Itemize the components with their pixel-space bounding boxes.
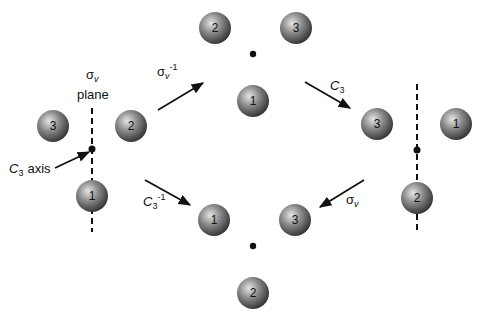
axis-point (89, 146, 96, 153)
svg-text:2: 2 (212, 21, 219, 35)
atom-2: 2 (199, 12, 231, 44)
svg-text:C3: C3 (330, 78, 344, 95)
svg-text:2: 2 (128, 119, 135, 133)
atom-3: 3 (37, 110, 69, 142)
axis-point (250, 243, 256, 249)
op-sigma: σv (320, 180, 364, 209)
axis-point (414, 147, 421, 154)
atom-3: 3 (280, 12, 312, 44)
atom-1: 1 (198, 204, 230, 236)
svg-text:1: 1 (211, 213, 218, 227)
config-top: 2 3 1 (199, 12, 312, 117)
svg-text:C3-1: C3-1 (143, 192, 165, 211)
atom-3: 3 (279, 204, 311, 236)
svg-text:3: 3 (374, 117, 381, 131)
axis-pointer-arrow (55, 152, 89, 168)
svg-text:3: 3 (50, 119, 57, 133)
svg-text:σv: σv (346, 192, 359, 209)
svg-text:3: 3 (293, 21, 300, 35)
op-c3: C3 (305, 78, 350, 108)
svg-text:1: 1 (89, 189, 96, 203)
atom-2: 2 (115, 110, 147, 142)
atom-1: 1 (237, 85, 269, 117)
plane-word: plane (77, 87, 109, 102)
atom-1: 1 (440, 108, 472, 140)
svg-text:3: 3 (292, 213, 299, 227)
svg-text:1: 1 (453, 117, 460, 131)
atom-2: 2 (401, 182, 433, 214)
config-bottom: 1 3 2 (198, 204, 311, 309)
svg-text:2: 2 (414, 191, 421, 205)
atom-2: 2 (237, 277, 269, 309)
svg-text:1: 1 (250, 94, 257, 108)
svg-text:σv-1: σv-1 (157, 62, 178, 81)
svg-text:2: 2 (250, 286, 257, 300)
op-c3-inverse: C3-1 (143, 180, 190, 211)
atom-3: 3 (361, 108, 393, 140)
config-left: 3 2 1 σv plane C3axis (9, 67, 147, 232)
c3-axis-label: C3axis (9, 161, 51, 178)
config-right: 3 1 2 (361, 84, 472, 232)
arrow (158, 83, 203, 110)
sigma-plane-label: σv (86, 67, 99, 84)
axis-point (250, 51, 256, 57)
atom-1: 1 (76, 180, 108, 212)
op-sigma-inverse: σv-1 (157, 62, 203, 110)
symmetry-diagram: 3 2 1 σv plane C3axis 2 3 (0, 0, 484, 323)
